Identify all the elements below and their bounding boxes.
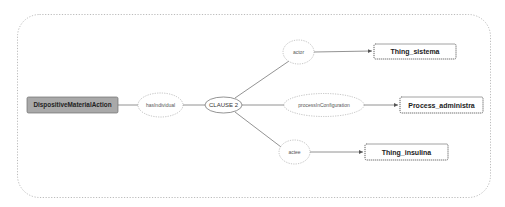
root-label: DispositiveMaterialAction [33,101,111,109]
target-label-process-administra: Process_administra [408,102,475,109]
edge-actor-to-thing-sistema [314,51,372,52]
target-label-thing-insulina: Thing_insulina [382,149,431,157]
role-label-actor: actor [293,49,304,55]
edge-clause-to-actee [235,112,285,150]
node-root[interactable]: DispositiveMaterialAction [27,97,118,113]
node-clause[interactable]: CLAUSE 2 [205,97,242,113]
node-target-thing-sistema[interactable]: Thing_sistema [374,44,456,59]
node-relation-hasindividual[interactable]: hasIndividual [138,93,183,117]
relation-label: hasIndividual [146,102,175,108]
role-label-actee: actee [288,149,300,155]
node-role-actee[interactable]: actee [279,140,310,164]
node-target-thing-insulina[interactable]: Thing_insulina [365,144,448,160]
node-role-processinconfiguration[interactable]: processInConfiguration [284,94,364,117]
diagram-canvas: DispositiveMaterialAction hasIndividual … [0,0,505,207]
role-label-processinconfiguration: processInConfiguration [298,102,350,108]
target-label-thing-sistema: Thing_sistema [390,48,439,56]
clause-label: CLAUSE 2 [209,102,239,108]
node-role-actor[interactable]: actor [283,40,314,64]
node-target-process-administra[interactable]: Process_administra [400,97,483,113]
edge-clause-to-actor [235,61,289,98]
